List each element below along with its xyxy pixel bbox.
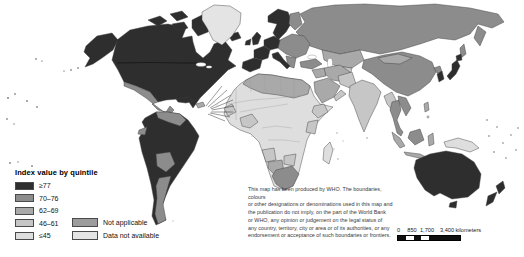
great-lakes-east	[206, 66, 212, 69]
legend-label-no-data: Data not available	[103, 232, 159, 239]
legend-item-q1: ≥77	[15, 181, 98, 190]
scale-end-label: 3,400 kilometers	[440, 227, 481, 233]
legend-swatch-no-data	[72, 231, 98, 240]
indian-ocean-dots	[333, 132, 368, 160]
region-philippines	[424, 102, 429, 112]
region-ireland	[245, 39, 251, 45]
region-tasmania	[449, 201, 457, 208]
legend-title: Index value by quintile	[15, 168, 98, 177]
region-new-guinea	[444, 138, 479, 152]
region-new-zealand-south	[486, 192, 497, 206]
region-philippines-south	[427, 116, 430, 119]
region-japan	[447, 60, 460, 80]
great-lakes	[196, 63, 206, 67]
pacific-island-dots-east	[486, 119, 519, 159]
legend-label-not-applicable: Not applicable	[103, 219, 147, 226]
region-scandinavia	[268, 9, 292, 40]
legend-item-q3: 62–69	[15, 206, 98, 215]
legend-label-q2: 70–76	[39, 195, 58, 202]
region-madagascar	[323, 142, 333, 164]
legend-swatch-q1	[15, 182, 34, 190]
region-russia	[296, 4, 504, 54]
legend-swatch-q5	[15, 232, 34, 240]
region-turkey	[300, 59, 322, 69]
region-angola	[262, 148, 276, 162]
scale-tick-850: 850	[407, 227, 416, 233]
region-kamchatka	[474, 26, 486, 46]
disclaimer-line: the publication do not imply, on the par…	[248, 209, 398, 217]
legend-swatch-q4	[15, 219, 34, 227]
region-falklands	[172, 220, 174, 222]
region-eastern-europe	[278, 34, 310, 58]
disclaimer-line: any country, territory, city or area or …	[248, 225, 398, 233]
region-borneo	[408, 129, 424, 145]
region-levant-iraq	[312, 68, 326, 78]
legend-swatch-q3	[15, 207, 34, 215]
region-zambia-zimbabwe	[284, 154, 296, 166]
region-new-zealand-north	[496, 181, 505, 194]
legend-item-not-applicable: Not applicable	[72, 218, 159, 227]
region-hispaniola	[196, 102, 205, 108]
region-india	[349, 80, 381, 132]
region-australia	[414, 151, 481, 199]
aleutian-dots	[35, 58, 78, 71]
who-disclaimer: This map has been produced by WHO. The b…	[248, 186, 398, 240]
scale-bar-labels: 0 850 1,700 3,400 kilometers	[397, 227, 487, 234]
scale-bar-graphic	[397, 235, 461, 241]
disclaimer-line: This map has been produced by WHO. The b…	[248, 186, 398, 201]
region-kenya-tanzania	[306, 120, 318, 134]
region-argentina	[155, 176, 171, 224]
legend-swatch-not-applicable	[72, 218, 98, 227]
disclaimer-line: endorsement or acceptance of such bounda…	[248, 232, 398, 240]
scale-bar: 0 850 1,700 3,400 kilometers	[397, 227, 487, 241]
scale-tick-1700: 1,700	[420, 227, 434, 233]
legend-extra: Not applicable Data not available	[72, 218, 159, 243]
legend-item-no-data: Data not available	[72, 231, 159, 240]
disclaimer-line: or WHO, any opinion or judgement on the …	[248, 217, 398, 225]
region-iberia	[242, 58, 262, 72]
legend-label-q3: 62–69	[39, 207, 58, 214]
region-uk	[252, 32, 261, 45]
region-japan-hokkaido	[456, 54, 462, 61]
legend-swatch-q2	[15, 194, 34, 202]
pacific-island-dots-west	[6, 93, 38, 167]
legend-label-q1: ≥77	[39, 182, 51, 189]
disclaimer-line: or other designations or denominations u…	[248, 201, 398, 209]
region-sulawesi	[428, 133, 434, 146]
scale-tick-0: 0	[397, 227, 400, 233]
legend-label-q5: ≤45	[39, 232, 51, 239]
legend-item-q2: 70–76	[15, 194, 98, 203]
legend-label-q4: 46–61	[39, 220, 58, 227]
black-sea	[308, 55, 317, 59]
